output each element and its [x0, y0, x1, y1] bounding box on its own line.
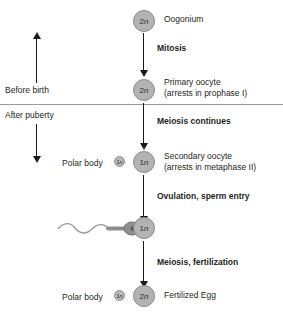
step-label-meiosis-fertilization: Meiosis, fertilization: [157, 257, 238, 268]
timeline-divider: [0, 104, 283, 105]
cell-fertilized-egg: 2n: [133, 285, 155, 307]
cell-primary-oocyte-label: Primary oocyte: [164, 77, 221, 88]
cell-oogonium-ploidy: 2n: [140, 17, 149, 26]
cell-oogonium-label: Oogonium: [164, 14, 203, 25]
arrow-down-icon-mitosis-head: [140, 70, 148, 77]
cell-secondary-oocyte-label: Secondary oocyte: [164, 151, 232, 162]
oogenesis-diagram: 2n Oogonium Mitosis 2n Primary oocyte (a…: [0, 0, 283, 313]
cell-fertilized-egg-ploidy: 2n: [140, 292, 149, 301]
arrow-down-icon-meiosis-continues-shaft: [143, 103, 144, 146]
phase-label-before-birth: Before birth: [5, 85, 49, 96]
step-label-mitosis: Mitosis: [157, 43, 186, 54]
cell-oogonium: 2n: [133, 10, 155, 32]
cell-fertilized-oocyte: 1n: [133, 217, 155, 239]
cell-secondary-oocyte-ploidy: 1n: [140, 158, 149, 167]
polar-body-first-label: Polar body: [62, 158, 103, 169]
polar-body-second-ploidy: 1n: [116, 293, 122, 299]
cell-fertilized-oocyte-ploidy: 1n: [140, 224, 149, 233]
step-label-meiosis-continues: Meiosis continues: [157, 116, 231, 127]
phase-label-after-puberty: After puberty: [5, 110, 54, 121]
arrow-down-icon-after-puberty-shaft: [36, 124, 37, 159]
polar-body-first-ploidy: 1n: [116, 159, 122, 165]
polar-body-second: 1n: [114, 290, 125, 301]
cell-primary-oocyte-ploidy: 2n: [140, 86, 149, 95]
arrow-down-icon-mitosis-shaft: [143, 33, 144, 73]
arrow-down-icon-after-puberty-head: [33, 156, 41, 163]
cell-secondary-oocyte-note: (arrests in metaphase II): [164, 162, 256, 173]
arrow-down-icon-meiosis-continues-head: [140, 143, 148, 150]
cell-secondary-oocyte: 1n: [133, 151, 155, 173]
cell-primary-oocyte-note: (arrests in prophase I): [164, 88, 247, 99]
arrow-down-icon-ovulation-shaft: [143, 175, 144, 219]
cell-primary-oocyte: 2n: [133, 79, 155, 101]
arrow-down-icon-meiosis-fertilization-shaft: [143, 241, 144, 285]
sperm-cell-icon: [56, 218, 144, 248]
polar-body-second-label: Polar body: [62, 292, 103, 303]
polar-body-first: 1n: [114, 156, 125, 167]
step-label-ovulation: Ovulation, sperm entry: [157, 191, 250, 202]
arrow-up-icon-before-birth-shaft: [36, 38, 37, 83]
arrow-up-icon-before-birth-head: [33, 32, 41, 39]
cell-fertilized-egg-label: Fertilized Egg: [164, 290, 216, 301]
